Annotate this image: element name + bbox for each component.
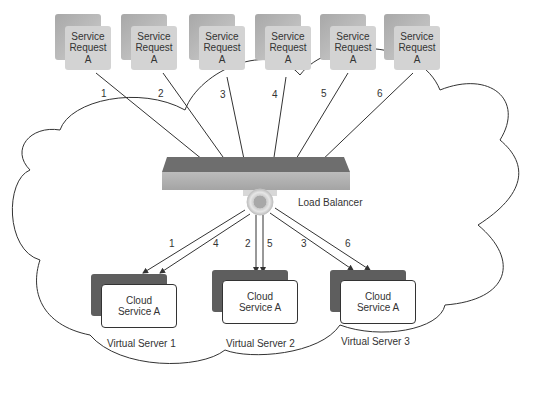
service-label-line2: Service A	[357, 302, 399, 314]
server-arrow-label: 5	[267, 238, 273, 249]
service-request-6: Service Request A	[384, 14, 440, 70]
service-request-4: Service Request A	[255, 14, 311, 70]
server-arrow-label: 2	[245, 238, 251, 249]
service-request-5: Service Request A	[320, 14, 376, 70]
request-label-line1: Service	[203, 31, 240, 43]
request-label-line2: Request	[269, 42, 306, 54]
request-label-line3: A	[269, 54, 306, 66]
virtual-server-name: Virtual Server 2	[226, 338, 295, 349]
request-label-line1: Service	[398, 31, 435, 43]
request-arrow-label-1: 1	[101, 88, 107, 99]
cloud-service-box: Cloud Service A	[222, 280, 298, 324]
load-balancer-bar	[162, 157, 350, 190]
request-label-line2: Request	[334, 42, 371, 54]
request-arrow-label-6: 6	[377, 88, 383, 99]
request-label-line3: A	[334, 54, 371, 66]
request-label-line2: Request	[398, 42, 435, 54]
request-label-line2: Request	[203, 42, 240, 54]
request-label-line2: Request	[69, 42, 106, 54]
request-label-line1: Service	[135, 31, 172, 43]
request-label-line1: Service	[69, 31, 106, 43]
service-request-2: Service Request A	[121, 14, 177, 70]
service-label-line2: Service A	[239, 302, 281, 314]
request-label-line2: Request	[135, 42, 172, 54]
virtual-server-name: Virtual Server 3	[341, 336, 410, 347]
request-arrow-label-2: 2	[158, 88, 164, 99]
request-label-line1: Service	[334, 31, 371, 43]
request-arrow-label-5: 5	[321, 88, 327, 99]
request-label-line3: A	[398, 54, 435, 66]
cloud-service-box: Cloud Service A	[101, 284, 177, 328]
cloud-service-box: Cloud Service A	[340, 280, 416, 324]
server-arrow-label: 3	[301, 238, 307, 249]
request-label-line3: A	[135, 54, 172, 66]
service-request-3: Service Request A	[189, 14, 245, 70]
request-label-line1: Service	[269, 31, 306, 43]
request-arrow-label-3: 3	[220, 89, 226, 100]
server-arrow-label: 4	[213, 238, 219, 249]
request-label-line3: A	[203, 54, 240, 66]
load-balancer-label: Load Balancer	[298, 197, 363, 208]
service-label-line1: Cloud	[118, 295, 160, 307]
request-arrow-label-4: 4	[272, 89, 278, 100]
virtual-server-name: Virtual Server 1	[107, 338, 176, 349]
request-label-line3: A	[69, 54, 106, 66]
service-label-line2: Service A	[118, 306, 160, 318]
service-label-line1: Cloud	[357, 291, 399, 303]
service-request-1: Service Request A	[55, 14, 111, 70]
server-arrow-label: 1	[169, 238, 175, 249]
service-label-line1: Cloud	[239, 291, 281, 303]
server-arrow-label: 6	[345, 238, 351, 249]
